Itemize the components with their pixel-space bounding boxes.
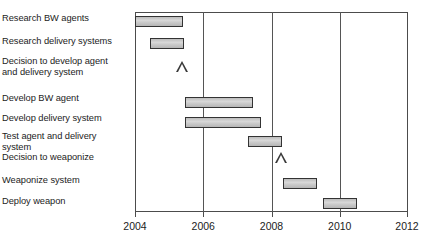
tick-mark-2010 bbox=[340, 212, 341, 217]
task-label-test-agent-and-delivery: Test agent and delivery system bbox=[2, 131, 131, 153]
task-label-develop-bw-agent: Develop BW agent bbox=[2, 93, 131, 104]
tick-mark-2012 bbox=[407, 212, 408, 217]
gridline-2008 bbox=[272, 12, 273, 212]
triangle-inner-icon bbox=[277, 155, 285, 163]
plot-area: 2004 2006 2008 2010 2012 bbox=[135, 12, 408, 212]
task-label-decision-to-weaponize: Decision to weaponize bbox=[2, 152, 131, 163]
bar-develop-delivery-system bbox=[185, 117, 262, 128]
tick-label-2010: 2010 bbox=[328, 220, 351, 232]
gridline-2006 bbox=[203, 12, 204, 212]
bar-weaponize-system bbox=[283, 178, 317, 189]
task-label-deploy-weapon: Deploy weapon bbox=[2, 196, 131, 207]
task-label-decision-to-develop: Decision to develop agent and delivery s… bbox=[2, 56, 131, 78]
tick-mark-2004 bbox=[135, 212, 136, 217]
tick-label-2008: 2008 bbox=[260, 220, 283, 232]
tick-mark-2008 bbox=[272, 212, 273, 217]
bar-research-delivery-systems bbox=[150, 38, 184, 49]
task-label-column: Research BW agents Research delivery sys… bbox=[0, 0, 134, 241]
bar-research-bw-agents bbox=[135, 16, 183, 27]
bar-deploy-weapon bbox=[323, 198, 357, 209]
gantt-chart-figure: Research BW agents Research delivery sys… bbox=[0, 0, 423, 241]
tick-mark-2006 bbox=[203, 212, 204, 217]
task-label-develop-delivery-system: Develop delivery system bbox=[2, 113, 131, 124]
bar-develop-bw-agent bbox=[185, 97, 253, 108]
tick-label-2006: 2006 bbox=[192, 220, 215, 232]
tick-label-2012: 2012 bbox=[395, 220, 418, 232]
bar-test-agent-and-delivery bbox=[248, 136, 282, 147]
tick-label-2004: 2004 bbox=[123, 220, 146, 232]
task-label-research-bw-agents: Research BW agents bbox=[2, 13, 131, 24]
gridline-2010 bbox=[340, 12, 341, 212]
task-label-research-delivery-systems: Research delivery systems bbox=[2, 36, 131, 47]
triangle-inner-icon bbox=[178, 64, 186, 72]
task-label-weaponize-system: Weaponize system bbox=[2, 175, 131, 186]
